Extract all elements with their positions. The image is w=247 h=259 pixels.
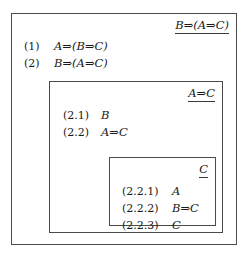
line-formula: A⇒(B⇒C) [54, 39, 108, 53]
proof-box-middle: A⇒C (2.1) B (2.2) A⇒C C (2.2.1) A [49, 81, 223, 233]
line-number: (2.2.1) [122, 185, 172, 198]
line-formula: B [101, 108, 109, 122]
proof-line: (2.2.1) A [122, 184, 227, 201]
proof-line: (2) B⇒(A⇒C) [24, 56, 247, 73]
line-formula: A⇒C [101, 125, 128, 139]
proof-line-list-inner: (2.2.1) A (2.2.2) B⇒C (2.2.3) C [110, 158, 227, 235]
line-formula: C [172, 218, 181, 232]
line-formula: B⇒C [172, 201, 199, 215]
proof-line: (2.1) B [63, 108, 235, 125]
proof-box-inner: C (2.2.1) A (2.2.2) B⇒C (2.2.3) C [109, 157, 216, 226]
proof-line-list-middle: (2.1) B (2.2) A⇒C [50, 82, 235, 142]
proof-line: (2.2.2) B⇒C [122, 201, 227, 218]
line-number: (2.1) [63, 109, 101, 122]
proof-line: (1) A⇒(B⇒C) [24, 39, 247, 56]
line-formula: B⇒(A⇒C) [54, 56, 108, 70]
proof-diagram: B⇒(A⇒C) (1) A⇒(B⇒C) (2) B⇒(A⇒C) A⇒C (2.1… [0, 0, 247, 259]
line-number: (2) [24, 57, 54, 70]
line-number: (1) [24, 40, 54, 53]
line-number: (2.2.3) [122, 219, 172, 232]
proof-line: (2.2.3) C [122, 218, 227, 235]
proof-line-list-outer: (1) A⇒(B⇒C) (2) B⇒(A⇒C) [12, 14, 247, 73]
proof-line: (2.2) A⇒C [63, 125, 235, 142]
line-formula: A [172, 184, 180, 198]
proof-box-outer: B⇒(A⇒C) (1) A⇒(B⇒C) (2) B⇒(A⇒C) A⇒C (2.1… [11, 13, 237, 245]
line-number: (2.2.2) [122, 202, 172, 215]
line-number: (2.2) [63, 126, 101, 139]
